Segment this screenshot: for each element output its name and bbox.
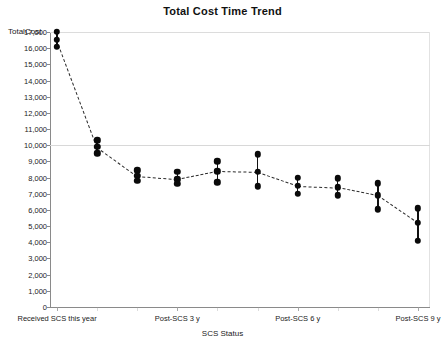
trend-line-segment bbox=[217, 171, 257, 173]
data-point-error-cap bbox=[54, 29, 60, 35]
x-tick-label: Post-SCS 9 y bbox=[396, 314, 441, 323]
data-point-error-cap bbox=[415, 205, 421, 211]
plot-area bbox=[50, 32, 430, 307]
x-tick-label: Post-SCS 6 y bbox=[275, 314, 320, 323]
x-tick-mark bbox=[298, 307, 299, 311]
data-point-error-cap bbox=[134, 178, 140, 184]
x-axis-tick-marks bbox=[50, 307, 430, 313]
y-axis-tick-marks bbox=[0, 32, 50, 307]
trend-line-segment bbox=[177, 171, 217, 180]
data-point-error-cap bbox=[214, 179, 220, 185]
chart-container: Total Cost Time Trend TotalCost 17,00016… bbox=[0, 0, 445, 346]
trend-line-segment bbox=[298, 186, 338, 189]
plot-frame-top bbox=[50, 32, 430, 33]
x-tick-mark bbox=[217, 307, 218, 311]
x-tick-mark bbox=[378, 307, 379, 311]
data-point-error-cap bbox=[254, 183, 260, 189]
trend-line-segment bbox=[338, 187, 378, 196]
data-point-mean bbox=[54, 37, 60, 43]
data-point-error-cap bbox=[294, 191, 300, 197]
data-point-mean bbox=[294, 182, 300, 188]
trend-line-segment bbox=[56, 40, 97, 147]
data-point-error-cap bbox=[415, 237, 421, 243]
gridline bbox=[50, 145, 430, 146]
trend-line-segment bbox=[97, 147, 138, 177]
x-tick-mark bbox=[418, 307, 419, 311]
x-tick-mark bbox=[258, 307, 259, 311]
x-tick-mark bbox=[177, 307, 178, 311]
x-tick-mark bbox=[137, 307, 138, 311]
data-point-error-cap bbox=[375, 206, 381, 212]
data-point-mean bbox=[214, 168, 220, 174]
data-point-mean bbox=[415, 220, 421, 226]
data-point-error-cap bbox=[174, 169, 180, 175]
data-point-error-cap bbox=[335, 175, 341, 181]
x-tick-mark bbox=[338, 307, 339, 311]
data-point-error-cap bbox=[335, 192, 341, 198]
trend-line-segment bbox=[257, 172, 297, 187]
data-point-error-cap bbox=[254, 151, 260, 157]
data-point-error-cap bbox=[94, 150, 100, 156]
x-tick-label: Post-SCS 3 y bbox=[155, 314, 200, 323]
x-tick-label: Received SCS this year bbox=[18, 314, 97, 323]
data-point-error-cap bbox=[375, 180, 381, 186]
trend-line-segment bbox=[377, 195, 418, 223]
data-point-mean bbox=[254, 169, 260, 175]
data-point-error-cap bbox=[214, 158, 220, 164]
data-point-error-cap bbox=[174, 181, 180, 187]
plot-frame-right bbox=[429, 32, 430, 307]
data-point-error-cap bbox=[294, 174, 300, 180]
chart-title: Total Cost Time Trend bbox=[0, 5, 445, 17]
x-axis-title: SCS Status bbox=[0, 329, 445, 338]
data-point-error-cap bbox=[94, 137, 100, 143]
x-tick-mark bbox=[97, 307, 98, 311]
data-point-mean bbox=[335, 184, 341, 190]
trend-line-segment bbox=[137, 176, 177, 180]
x-tick-mark bbox=[57, 307, 58, 311]
